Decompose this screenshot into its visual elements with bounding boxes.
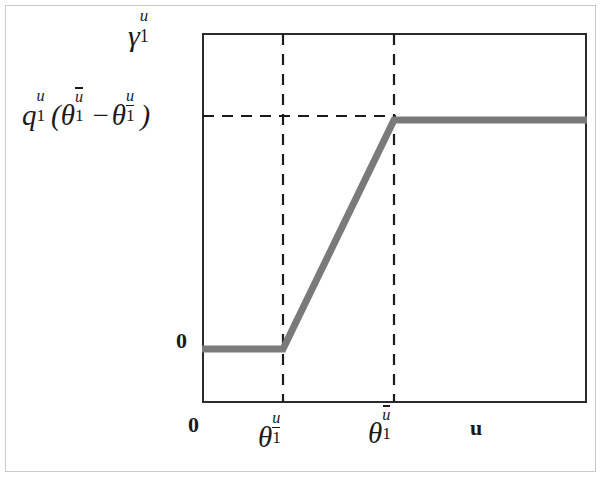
- y-axis-title-script: u1: [140, 16, 155, 46]
- x-axis-tick-upper-threshold: θu1: [368, 414, 397, 448]
- open-paren: (: [51, 99, 61, 131]
- x-tick-1-script: u1: [272, 418, 287, 447]
- figure-canvas: γu1 qu1(θu1−θu1) 0 0 θu1 θu1 u: [0, 0, 602, 478]
- theta-upper-base: θ: [61, 99, 75, 131]
- theta-lower-base: θ: [112, 99, 126, 131]
- underbar-u: u: [272, 410, 280, 426]
- theta-upper-sup: u: [75, 88, 83, 105]
- y-axis-title: γu1: [128, 16, 155, 51]
- theta-lower-sup: u: [126, 88, 134, 104]
- x-tick-1-sup: u: [272, 410, 280, 426]
- q-base: q: [22, 99, 37, 131]
- y-axis-zero-label: 0: [176, 330, 187, 352]
- q-sup: u: [37, 88, 45, 104]
- y-axis-tick-label: qu1(θu1−θu1): [22, 96, 150, 130]
- underbar-u: u: [126, 88, 134, 104]
- overbar-u: u: [75, 88, 83, 105]
- y-axis-title-sub: 1: [140, 27, 149, 45]
- x-axis-origin-label: 0: [188, 414, 199, 436]
- overbar-u: u: [382, 406, 390, 423]
- y-axis-title-base: γ: [128, 19, 140, 52]
- x-axis-tick-lower-threshold: θu1: [258, 418, 287, 452]
- plot-graphics: [0, 0, 602, 478]
- close-paren: ): [141, 99, 151, 131]
- minus-sign: −: [89, 99, 111, 131]
- q-sub: 1: [37, 107, 46, 124]
- theta-upper-sub: 1: [75, 107, 84, 124]
- theta-lower-sub: 1: [126, 107, 135, 124]
- x-tick-1-base: θ: [258, 421, 272, 453]
- x-axis-title: u: [470, 417, 482, 439]
- x-tick-1-sub: 1: [272, 429, 281, 446]
- q-script: u1: [37, 96, 52, 125]
- x-tick-2-base: θ: [368, 417, 382, 449]
- x-tick-2-script: u1: [382, 414, 397, 443]
- y-axis-title-sup: u: [140, 8, 148, 25]
- theta-upper-script: u1: [75, 96, 90, 125]
- x-tick-2-sup: u: [382, 406, 390, 423]
- theta-lower-script: u1: [126, 96, 141, 125]
- x-tick-2-sub: 1: [382, 425, 391, 442]
